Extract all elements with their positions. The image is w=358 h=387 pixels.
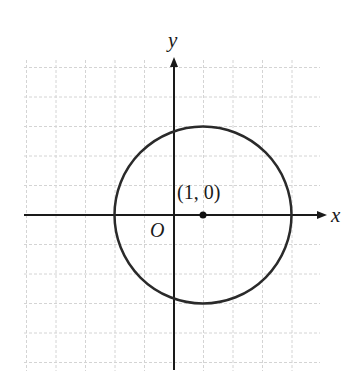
center-point [200, 212, 207, 219]
coordinate-plane-figure: (1, 0) O x y [0, 0, 358, 387]
x-axis-label: x [330, 203, 341, 227]
point-label: (1, 0) [177, 181, 220, 204]
x-axis-arrow-icon [317, 211, 327, 219]
y-axis-label: y [166, 28, 178, 52]
origin-label: O [150, 219, 164, 241]
y-axis-arrow-icon [170, 57, 178, 67]
